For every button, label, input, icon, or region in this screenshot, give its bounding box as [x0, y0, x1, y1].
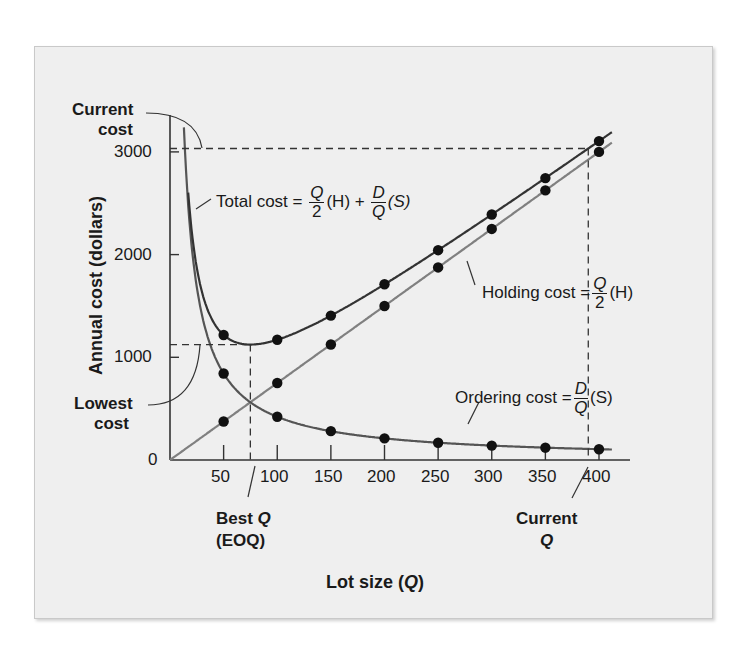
current-cost-label: Currentcost	[72, 100, 133, 140]
x-tick-350: 350	[528, 467, 556, 487]
y-tick-3000: 3000	[114, 142, 152, 162]
fraction-q-over-2: Q2	[309, 184, 324, 221]
data-point	[433, 262, 443, 272]
ordering-cost-formula: Ordering cost =DQ(S)	[455, 380, 613, 417]
data-point	[487, 224, 497, 234]
data-point	[433, 438, 443, 448]
current-q-label: CurrentQ	[516, 508, 577, 552]
data-point	[487, 440, 497, 450]
data-point	[218, 330, 228, 340]
holding-cost-leader	[467, 261, 475, 285]
data-point	[272, 412, 282, 422]
data-point	[218, 416, 228, 426]
data-point	[540, 442, 550, 452]
data-point	[540, 185, 550, 195]
x-tick-50: 50	[211, 467, 230, 487]
y-tick-0: 0	[148, 450, 157, 470]
data-point	[272, 335, 282, 345]
best-q-label: Best Q(EOQ)	[216, 508, 271, 552]
lowest-cost-leader	[148, 345, 200, 405]
data-point	[379, 301, 389, 311]
current-cost-leader	[146, 113, 202, 148]
total-cost-leader	[196, 199, 211, 209]
x-tick-300: 300	[474, 467, 502, 487]
data-point	[487, 209, 497, 219]
data-point	[218, 368, 228, 378]
data-point	[326, 310, 336, 320]
lowest-cost-label: Lowestcost	[74, 394, 133, 434]
fraction-q-over-2: Q2	[592, 275, 607, 312]
data-point	[326, 426, 336, 436]
data-point	[379, 279, 389, 289]
x-tick-200: 200	[367, 467, 395, 487]
data-point	[272, 378, 282, 388]
data-point	[379, 433, 389, 443]
x-tick-400: 400	[582, 467, 610, 487]
fraction-d-over-q: DQ	[371, 184, 385, 221]
data-point	[540, 173, 550, 183]
y-tick-1000: 1000	[114, 347, 152, 367]
data-point	[594, 444, 604, 454]
x-tick-250: 250	[421, 467, 449, 487]
chart-plot	[0, 0, 756, 660]
y-tick-2000: 2000	[114, 245, 152, 265]
x-tick-100: 100	[260, 467, 288, 487]
total-cost-formula: Total cost = Q2(H) + DQ(S)	[216, 184, 410, 221]
x-axis-title: Lot size (Q)	[326, 572, 424, 593]
data-point	[433, 245, 443, 255]
best-q-leader	[248, 466, 255, 497]
data-point	[326, 339, 336, 349]
fraction-d-over-q: DQ	[574, 380, 588, 417]
x-tick-150: 150	[314, 467, 342, 487]
data-point	[594, 136, 604, 146]
holding-cost-formula: Holding cost =Q2(H)	[482, 275, 633, 312]
total-cost-curve	[188, 132, 612, 344]
y-axis-title: Annual cost (dollars)	[86, 196, 107, 375]
data-point	[594, 147, 604, 157]
